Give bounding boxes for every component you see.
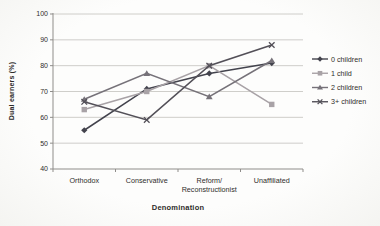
axis-tick-label: 80 bbox=[40, 62, 48, 69]
series-line bbox=[84, 45, 272, 120]
square-marker-icon bbox=[269, 102, 274, 107]
axis-tick-label: Unaffiliated bbox=[254, 176, 290, 185]
triangle-marker-icon bbox=[268, 57, 275, 63]
axis-tick-label: Orthodox bbox=[69, 176, 99, 185]
line-chart: 405060708090100OrthodoxConservativeRefor… bbox=[0, 0, 380, 226]
legend-label: 2 children bbox=[331, 83, 362, 92]
axis-tick-label: 90 bbox=[40, 36, 48, 43]
legend-label: 1 child bbox=[331, 69, 352, 78]
square-marker-icon bbox=[144, 89, 149, 94]
x-axis-title: Denomination bbox=[152, 203, 204, 212]
chart-figure: 405060708090100OrthodoxConservativeRefor… bbox=[0, 0, 380, 226]
legend-label: 3+ children bbox=[331, 97, 366, 106]
series-line bbox=[84, 63, 272, 130]
axis-tick-label: Reconstructionist bbox=[182, 185, 237, 194]
axis-tick-label: 50 bbox=[40, 140, 48, 147]
y-axis-title: Dual earners (%) bbox=[8, 62, 15, 120]
triangle-marker-icon bbox=[143, 70, 150, 76]
diamond-marker-icon bbox=[317, 56, 322, 61]
axis-tick-label: 40 bbox=[40, 165, 48, 172]
square-marker-icon bbox=[82, 107, 87, 112]
axis-tick-label: 70 bbox=[40, 88, 48, 95]
axis-tick-label: Conservative bbox=[126, 176, 168, 185]
axis-tick-label: 100 bbox=[36, 10, 48, 17]
diamond-marker-icon bbox=[206, 70, 212, 76]
axis-tick-label: Reform/ bbox=[196, 176, 222, 185]
axis-tick-label: 60 bbox=[40, 114, 48, 121]
legend-label: 0 children bbox=[331, 55, 362, 64]
square-marker-icon bbox=[318, 71, 323, 76]
